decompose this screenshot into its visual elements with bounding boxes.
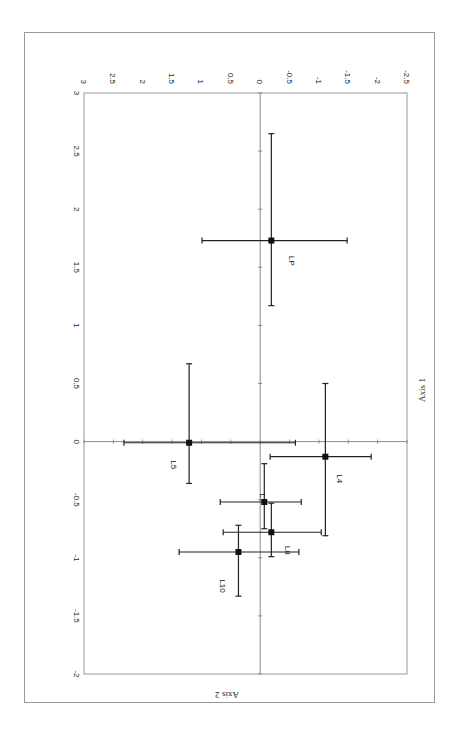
axis1-tick-label: -1 — [72, 554, 81, 562]
axis1-tick-label: -1.5 — [72, 609, 81, 623]
data-point-l10: L10 — [179, 525, 299, 596]
point-label: LP — [287, 256, 296, 266]
axis2-tick-label: 0.5 — [226, 73, 235, 85]
axis2-tick-label: 1.5 — [167, 73, 176, 85]
axis1-tick-label: 2.5 — [72, 146, 81, 158]
axis2-tick-label: 0 — [255, 80, 264, 85]
axis2-title: Axis 2 — [215, 690, 239, 700]
axis2-tick-label: -2 — [373, 77, 382, 85]
data-points: LPL5L4L7L8L10 — [124, 134, 371, 596]
axis1-tick-label: -0.5 — [72, 493, 81, 507]
square-marker — [235, 549, 241, 555]
square-marker — [186, 440, 192, 446]
axis1-tick-label: 2 — [72, 207, 81, 212]
square-marker — [322, 454, 328, 460]
point-label: L7 — [258, 494, 267, 503]
scatter-chart: -2-1.5-1-0.500.511.522.5332.521.510.50-0… — [0, 0, 455, 739]
point-label: L5 — [169, 460, 178, 469]
axis1-tick-label: 0 — [72, 439, 81, 444]
axis2-tick-label: -0.5 — [285, 70, 294, 84]
square-marker — [268, 529, 274, 535]
axis1-tick-label: 1 — [72, 323, 81, 328]
data-point-lp: LP — [202, 134, 347, 306]
square-marker — [268, 238, 274, 244]
zero-axis-lines — [84, 93, 407, 674]
axis2-tick-label: 2.5 — [108, 73, 117, 85]
plot-area — [84, 93, 407, 674]
point-label: L10 — [218, 579, 227, 593]
axis1-title: Axis 1 — [417, 378, 427, 402]
axis2-tick-label: 2 — [138, 80, 147, 85]
data-point-l4: L4 — [270, 384, 371, 536]
axis1-tick-label: -2 — [72, 670, 81, 678]
axis1-tick-label: 3 — [72, 91, 81, 96]
point-label: L8 — [283, 546, 292, 555]
axis1-tick-label: 0.5 — [72, 378, 81, 390]
data-point-l7: L7 — [220, 464, 301, 529]
axis2-tick-label: -1 — [314, 77, 323, 85]
axis2-tick-label: -1.5 — [343, 70, 352, 84]
axis2-tick-label: -2.5 — [402, 70, 411, 84]
data-point-l5: L5 — [124, 364, 295, 484]
axis-ticks — [84, 93, 407, 674]
tick-labels: -2-1.5-1-0.500.511.522.5332.521.510.50-0… — [72, 70, 411, 678]
axis2-tick-label: 1 — [196, 80, 205, 85]
axis2-tick-label: 3 — [79, 80, 88, 85]
axis1-tick-label: 1.5 — [72, 262, 81, 274]
point-label: L4 — [335, 474, 344, 483]
